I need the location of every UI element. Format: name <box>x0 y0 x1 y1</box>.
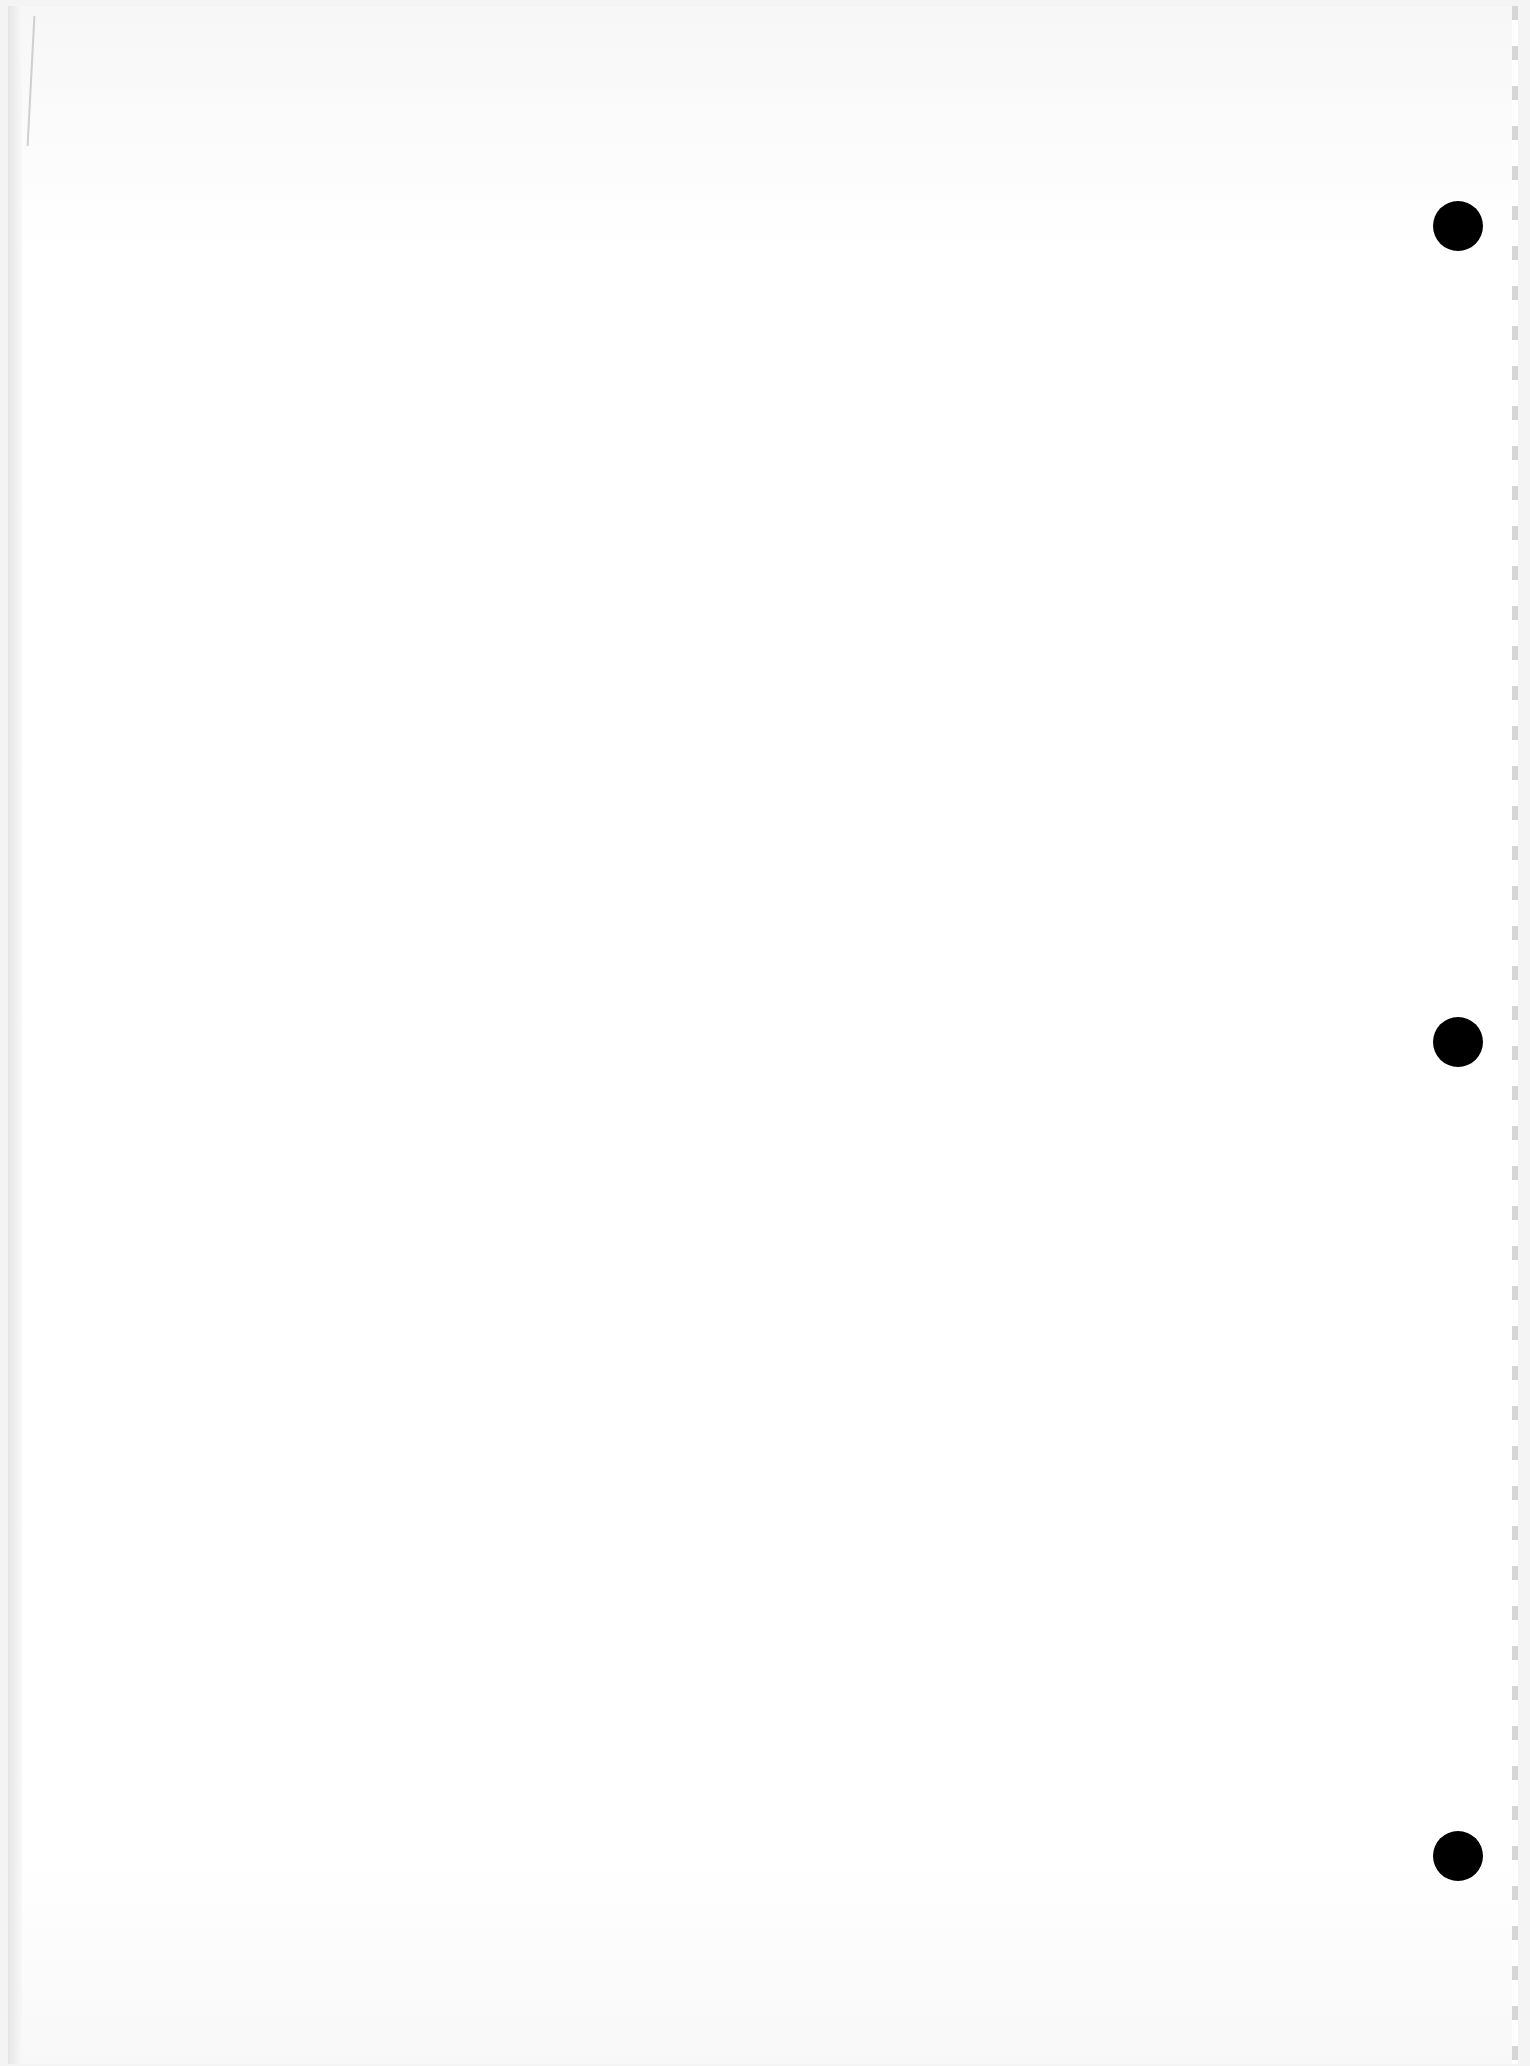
page-right-edge <box>1512 6 1518 2064</box>
page-left-edge <box>8 6 22 2064</box>
scan-streak <box>27 16 36 146</box>
punch-hole-top <box>1433 201 1483 251</box>
scanned-page <box>8 6 1518 2064</box>
punch-hole-middle <box>1433 1017 1483 1067</box>
punch-hole-bottom <box>1433 1831 1483 1881</box>
